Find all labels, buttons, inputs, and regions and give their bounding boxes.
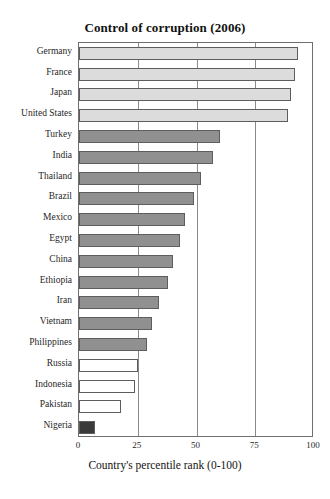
category-label: Philippines [0,337,72,347]
bar-row [79,313,312,334]
bar-turkey [79,130,220,143]
bar-france [79,68,295,81]
bar-row [79,168,312,189]
category-label: Turkey [0,129,72,139]
bar-thailand [79,172,201,185]
bar-philippines [79,338,147,351]
bar-germany [79,47,298,60]
bar-row [79,272,312,293]
chart-title: Control of corruption (2006) [0,20,330,36]
x-tick-label-100: 100 [306,440,320,450]
category-label: Russia [0,358,72,368]
x-tick-label-75: 75 [250,440,259,450]
bar-mexico [79,213,185,226]
bar-row [79,147,312,168]
category-label: Ethiopia [0,275,72,285]
category-label: Vietnam [0,316,72,326]
bar-russia [79,359,138,372]
category-label: Japan [0,87,72,97]
bar-row [79,292,312,313]
x-axis-tick-labels: 0255075100 [0,440,330,454]
bar-iran [79,296,159,309]
bars-layer [79,43,312,436]
bar-row [79,64,312,85]
bar-row [79,85,312,106]
bar-row [79,189,312,210]
category-label: United States [0,108,72,118]
bar-row [79,334,312,355]
bar-united-states [79,109,288,122]
category-label: India [0,150,72,160]
bar-row [79,355,312,376]
category-label: Germany [0,46,72,56]
category-label: Egypt [0,233,72,243]
chart-figure: Control of corruption (2006) GermanyFran… [0,0,330,499]
category-label: Mexico [0,212,72,222]
bar-india [79,151,213,164]
bar-row [79,376,312,397]
bar-row [79,251,312,272]
category-label: Iran [0,295,72,305]
bar-row [79,417,312,438]
bar-egypt [79,234,180,247]
bar-china [79,255,173,268]
category-label: France [0,67,72,77]
category-label: Thailand [0,171,72,181]
bar-row [79,230,312,251]
category-label: Brazil [0,191,72,201]
category-label: China [0,254,72,264]
bar-ethiopia [79,276,168,289]
category-label: Pakistan [0,399,72,409]
bar-row [79,209,312,230]
bar-indonesia [79,380,135,393]
x-axis-title: Country's percentile rank (0-100) [0,459,330,471]
bar-brazil [79,192,194,205]
bar-row [79,43,312,64]
bar-row [79,396,312,417]
x-tick-label-50: 50 [191,440,200,450]
bar-nigeria [79,421,95,434]
category-label: Nigeria [0,420,72,430]
category-label: Indonesia [0,379,72,389]
bar-row [79,126,312,147]
bar-japan [79,88,291,101]
bar-row [79,105,312,126]
category-axis-labels: GermanyFranceJapanUnited StatesTurkeyInd… [0,42,76,437]
plot-area [78,42,313,437]
bar-vietnam [79,317,152,330]
x-tick-label-0: 0 [76,440,81,450]
bar-pakistan [79,400,121,413]
x-tick-label-25: 25 [132,440,141,450]
